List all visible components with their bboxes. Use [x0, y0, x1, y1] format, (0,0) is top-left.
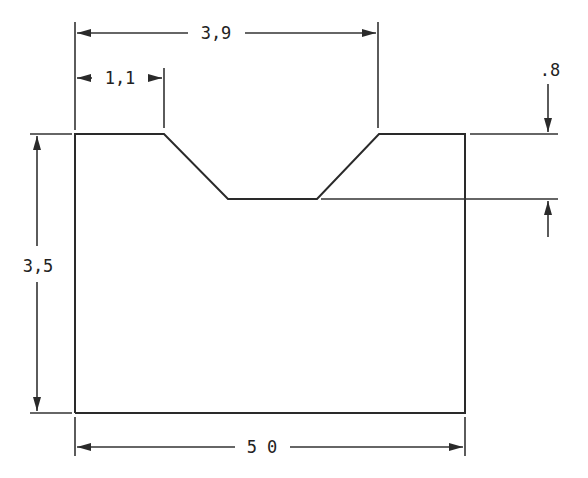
- dimension-groove-depth: .8: [540, 60, 560, 237]
- dimension-left-land: 1,1: [77, 68, 162, 88]
- arrowhead-icon: [544, 118, 552, 132]
- dimension-label-overall-width: 5 0: [247, 437, 278, 457]
- arrowhead-icon: [362, 29, 376, 37]
- arrowhead-icon: [449, 443, 463, 451]
- arrowhead-icon: [33, 397, 41, 411]
- dimension-label-top-opening: 3,9: [201, 23, 232, 43]
- arrowhead-icon: [77, 29, 91, 37]
- dimension-label-groove-depth: .8: [540, 60, 560, 80]
- dimension-overall-height: 3,5: [23, 136, 54, 411]
- part-outline: [75, 134, 465, 413]
- technical-drawing: 3,9 1,1 .8 3,5 5 0: [0, 0, 588, 478]
- arrowhead-icon: [77, 74, 91, 82]
- arrowhead-icon: [544, 201, 552, 215]
- dimension-label-left-land: 1,1: [105, 68, 136, 88]
- arrowhead-icon: [33, 136, 41, 150]
- dimension-top-opening: 3,9: [77, 23, 376, 43]
- dimension-overall-width: 5 0: [77, 437, 463, 457]
- arrowhead-icon: [148, 74, 162, 82]
- dimension-label-overall-height: 3,5: [23, 256, 54, 276]
- arrowhead-icon: [77, 443, 91, 451]
